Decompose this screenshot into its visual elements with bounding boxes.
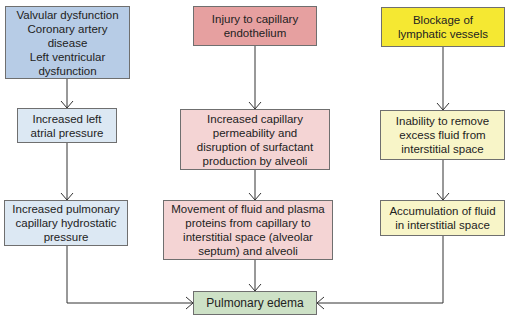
- node-increased-left-atrial-pressure: Increased left atrial pressure: [17, 108, 117, 143]
- node-capillary-injury: Injury to capillary endothelium: [193, 6, 317, 46]
- node-lymphatic-blockage: Blockage of lymphatic vessels: [381, 7, 505, 47]
- node-label: Increased left atrial pressure: [31, 112, 104, 140]
- node-label: Valvular dysfunction Coronary artery dis…: [16, 8, 118, 78]
- node-label: Injury to capillary endothelium: [212, 12, 298, 40]
- node-label: Increased capillary permeability and dis…: [197, 112, 313, 168]
- node-fluid-removal-failure: Inability to remove excess fluid from in…: [380, 110, 505, 160]
- node-label: Accumulation of fluid in interstitial sp…: [389, 204, 495, 232]
- node-fluid-movement: Movement of fluid and plasma proteins fr…: [163, 200, 333, 260]
- node-label: Blockage of lymphatic vessels: [398, 13, 488, 41]
- node-pulmonary-edema: Pulmonary edema: [193, 291, 317, 315]
- arrow-lymphatic-3-outcome: [317, 236, 443, 303]
- node-increased-hydrostatic-pressure: Increased pulmonary capillary hydrostati…: [4, 200, 128, 246]
- node-label: Pulmonary edema: [206, 296, 303, 310]
- node-label: Increased pulmonary capillary hydrostati…: [12, 202, 119, 244]
- node-label: Movement of fluid and plasma proteins fr…: [171, 202, 324, 258]
- node-cardiac-causes: Valvular dysfunction Coronary artery dis…: [5, 6, 130, 79]
- node-fluid-accumulation: Accumulation of fluid in interstitial sp…: [380, 200, 505, 236]
- node-increased-permeability: Increased capillary permeability and dis…: [180, 109, 330, 170]
- node-label: Inability to remove excess fluid from in…: [396, 114, 489, 156]
